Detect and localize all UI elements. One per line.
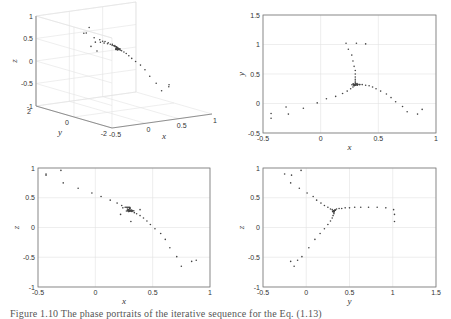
x-tick-label: 1.5 xyxy=(431,289,441,296)
data-point xyxy=(60,170,62,172)
y-tick-label: 0 xyxy=(65,119,69,126)
data-point xyxy=(121,205,123,207)
data-point xyxy=(155,82,157,84)
data-point xyxy=(95,41,97,43)
data-point xyxy=(293,265,295,267)
y-axis-label: z xyxy=(11,225,21,230)
data-point xyxy=(130,221,132,223)
data-point xyxy=(372,86,374,88)
data-point xyxy=(149,76,151,78)
data-point xyxy=(100,196,102,198)
x-axis-line xyxy=(112,114,212,128)
data-point xyxy=(299,187,301,189)
z-tick-label: 0 xyxy=(29,58,33,65)
data-point xyxy=(123,51,125,53)
data-point xyxy=(421,109,423,111)
data-point xyxy=(342,93,344,95)
data-point xyxy=(351,84,353,86)
data-point xyxy=(316,199,318,201)
data-point xyxy=(102,41,104,43)
data-point xyxy=(161,90,163,92)
data-point xyxy=(333,210,335,212)
data-point xyxy=(128,55,130,57)
data-point xyxy=(354,80,356,82)
data-point xyxy=(139,215,141,217)
data-point xyxy=(291,174,293,176)
y-tick-label: -0.5 xyxy=(248,254,260,261)
data-point xyxy=(417,113,419,115)
data-point xyxy=(116,202,118,204)
data-point xyxy=(324,205,326,207)
y-axis-label: y xyxy=(236,72,246,77)
data-point xyxy=(395,101,397,103)
data-point xyxy=(99,39,101,41)
data-point xyxy=(109,199,111,201)
data-point xyxy=(354,70,356,72)
data-point xyxy=(168,86,170,88)
data-point xyxy=(290,261,292,263)
data-point xyxy=(354,76,356,78)
z-tick-label: -0.5 xyxy=(21,80,33,87)
subplot-yz: -0.500.511.5-1-0.500.51yz xyxy=(236,165,441,307)
data-point xyxy=(330,220,332,222)
data-point xyxy=(125,53,127,55)
x-tick-label: 0.5 xyxy=(177,122,187,129)
y-tick-label: 0.5 xyxy=(250,71,260,78)
y-tick-label: 0.5 xyxy=(25,194,35,201)
data-point xyxy=(319,233,321,235)
data-point xyxy=(393,209,395,211)
data-point xyxy=(365,43,367,45)
data-point xyxy=(288,113,290,115)
data-point xyxy=(160,233,162,235)
data-point xyxy=(285,106,287,108)
data-point xyxy=(131,58,133,60)
y-tick-label: 0 xyxy=(256,100,260,107)
data-point xyxy=(104,41,106,43)
data-point xyxy=(103,42,105,44)
y-axis-label: y xyxy=(57,127,62,137)
x-tick-label: 1 xyxy=(213,117,217,124)
data-point xyxy=(327,224,329,226)
y-gridline xyxy=(74,103,174,117)
data-point xyxy=(195,259,197,261)
x-tick-label: 0.5 xyxy=(345,289,355,296)
data-point xyxy=(45,174,47,176)
data-point xyxy=(361,84,363,86)
data-point xyxy=(91,192,93,194)
z-gridline xyxy=(36,70,136,84)
data-point xyxy=(390,97,392,99)
subplot-xy: -0.500.51-0.500.511.5xy xyxy=(236,12,438,153)
data-point xyxy=(331,217,333,219)
z-tick-label: -1 xyxy=(27,103,33,110)
y-tick-label: 1.5 xyxy=(250,12,260,19)
x-tick-label: 1 xyxy=(391,289,395,296)
data-point xyxy=(83,32,85,34)
data-point xyxy=(122,207,124,209)
data-point xyxy=(348,48,350,50)
data-point xyxy=(290,182,292,184)
data-point xyxy=(146,220,148,222)
data-point xyxy=(385,207,387,209)
figure-caption: Figure 1.10 The phase portraits of the i… xyxy=(10,308,450,319)
data-point xyxy=(380,90,382,92)
data-point xyxy=(90,46,92,48)
data-point xyxy=(77,187,79,189)
x-axis-label: x xyxy=(121,296,126,306)
y-tick-label: -1 xyxy=(254,284,260,291)
data-point xyxy=(126,210,128,212)
x-tick-label: 0.5 xyxy=(373,135,383,142)
z-gridline xyxy=(36,47,136,61)
data-point xyxy=(324,228,326,230)
data-point xyxy=(297,259,299,261)
data-point xyxy=(129,210,131,212)
data-point xyxy=(368,85,370,87)
x-tick-label: 1 xyxy=(208,289,212,296)
data-point xyxy=(85,32,87,34)
data-point xyxy=(314,239,316,241)
data-point xyxy=(331,209,333,211)
data-point xyxy=(284,173,286,175)
data-point xyxy=(136,213,138,215)
data-point xyxy=(140,64,142,66)
y-tick-label: -0.5 xyxy=(23,254,35,261)
subplot-xz: -0.500.51-1-0.500.51xz xyxy=(11,165,212,307)
